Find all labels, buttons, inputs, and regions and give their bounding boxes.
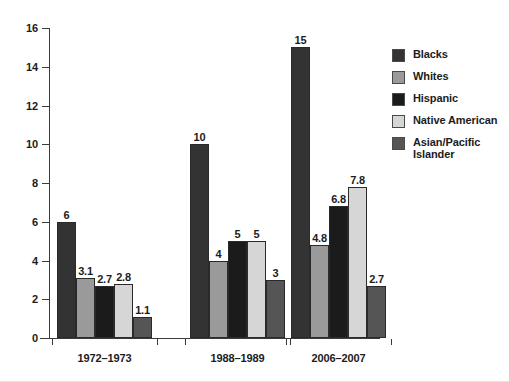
y-axis-tick — [42, 299, 49, 300]
bar-value-label: 15 — [295, 34, 307, 46]
bar-group: 154.86.87.82.7 — [291, 28, 386, 338]
bar[interactable]: 1.1 — [133, 317, 152, 338]
y-axis-label: 14 — [4, 61, 38, 73]
y-axis-tick — [42, 67, 49, 68]
x-axis-tick — [391, 339, 392, 345]
bar-value-label: 2.8 — [116, 271, 131, 283]
bar-value-label: 5 — [254, 228, 260, 240]
legend-swatch-icon — [392, 115, 405, 128]
bar-value-label: 3.1 — [78, 265, 93, 277]
x-axis-category-label: 2006–2007 — [311, 352, 365, 364]
chart-legend: BlacksWhitesHispanicNative AmericanAsian… — [392, 48, 507, 168]
y-axis-label: 16 — [4, 22, 38, 34]
y-axis-label: 0 — [4, 332, 38, 344]
bar[interactable]: 4.8 — [310, 245, 329, 338]
legend-item[interactable]: Asian/Pacific Islander — [392, 136, 507, 160]
legend-item-label: Asian/Pacific Islander — [413, 136, 507, 160]
bar-value-label: 10 — [194, 131, 206, 143]
bar[interactable]: 6 — [57, 222, 76, 338]
bar[interactable]: 2.7 — [367, 286, 386, 338]
y-axis-tick — [42, 144, 49, 145]
y-axis-tick — [42, 261, 49, 262]
y-axis-tick — [42, 183, 49, 184]
plot-area: 63.12.72.81.1104553154.86.87.82.7 — [49, 28, 378, 338]
bar[interactable]: 3 — [266, 280, 285, 338]
chart-page: 0246810121416 63.12.72.81.1104553154.86.… — [0, 0, 509, 382]
y-axis-label: 10 — [4, 138, 38, 150]
bar[interactable]: 15 — [291, 47, 310, 338]
y-axis-label: 2 — [4, 293, 38, 305]
bar[interactable]: 5 — [247, 241, 266, 338]
x-axis-tick — [157, 339, 158, 345]
y-axis-label: 8 — [4, 177, 38, 189]
bar-value-label: 5 — [235, 228, 241, 240]
legend-item[interactable]: Whites — [392, 70, 507, 84]
bar[interactable]: 3.1 — [76, 278, 95, 338]
y-axis-tick — [42, 28, 49, 29]
x-axis-category-label: 1988–1989 — [210, 352, 264, 364]
bar[interactable]: 4 — [209, 261, 228, 339]
x-axis-line — [40, 338, 380, 339]
legend-swatch-icon — [392, 71, 405, 84]
x-axis-category-label: 1972–1973 — [77, 352, 131, 364]
bar-value-label: 6 — [64, 209, 70, 221]
y-axis-label: 4 — [4, 255, 38, 267]
y-axis-label: 12 — [4, 100, 38, 112]
bar-value-label: 7.8 — [350, 174, 365, 186]
bar-group: 63.12.72.81.1 — [57, 28, 152, 338]
legend-item-label: Native American — [413, 114, 497, 126]
y-axis-tick — [42, 338, 49, 339]
bar[interactable]: 2.7 — [95, 286, 114, 338]
bar-value-label: 3 — [273, 267, 279, 279]
legend-item[interactable]: Blacks — [392, 48, 507, 62]
legend-item-label: Blacks — [413, 48, 448, 60]
x-axis-tick — [185, 339, 186, 345]
y-axis-label: 6 — [4, 216, 38, 228]
y-axis-tick-labels: 0246810121416 — [0, 0, 38, 382]
legend-swatch-icon — [392, 49, 405, 62]
bar[interactable]: 2.8 — [114, 284, 133, 338]
x-axis-tick — [286, 339, 287, 345]
bar-value-label: 2.7 — [97, 273, 112, 285]
legend-swatch-icon — [392, 93, 405, 106]
bar-value-label: 1.1 — [135, 304, 150, 316]
bar-value-label: 4.8 — [312, 232, 327, 244]
legend-item-label: Hispanic — [413, 92, 458, 104]
bar[interactable]: 10 — [190, 144, 209, 338]
legend-item[interactable]: Native American — [392, 114, 507, 128]
bar-value-label: 6.8 — [331, 193, 346, 205]
y-axis-tick — [42, 106, 49, 107]
legend-item-label: Whites — [413, 70, 448, 82]
bar-value-label: 2.7 — [369, 273, 384, 285]
bar[interactable]: 7.8 — [348, 187, 367, 338]
bar-group: 104553 — [190, 28, 285, 338]
bar-value-label: 4 — [216, 248, 222, 260]
y-axis-tick — [42, 222, 49, 223]
x-axis-tick — [52, 339, 53, 345]
legend-item[interactable]: Hispanic — [392, 92, 507, 106]
x-axis-tick — [290, 339, 291, 345]
bar[interactable]: 5 — [228, 241, 247, 338]
legend-swatch-icon — [392, 137, 405, 150]
bar[interactable]: 6.8 — [329, 206, 348, 338]
